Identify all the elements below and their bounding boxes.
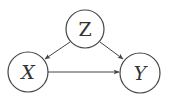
node-y: Y (120, 53, 160, 93)
node-z: Z (66, 10, 104, 48)
edge-z-to-y (100, 42, 123, 59)
edge-z-to-x (45, 42, 70, 59)
node-z-label: Z (78, 18, 91, 40)
node-x-label: X (19, 61, 36, 83)
node-x: X (8, 52, 48, 92)
causal-diagram: Z X Y (0, 0, 172, 102)
